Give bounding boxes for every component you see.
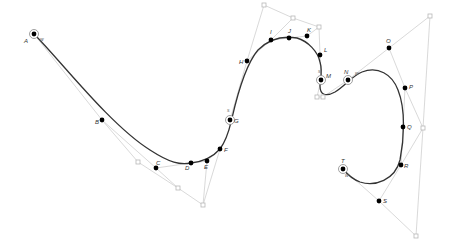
point-label: E xyxy=(204,164,209,170)
bezier-curve xyxy=(34,34,404,184)
point-label: A xyxy=(23,38,28,44)
point-b[interactable]: B xyxy=(95,118,104,125)
control-polygon xyxy=(230,5,321,120)
on-curve-points: ABCDEFGHIJKLMNOPQRST xyxy=(23,27,413,204)
point-dot xyxy=(269,38,274,43)
point-dot xyxy=(100,118,105,123)
point-a[interactable]: A xyxy=(23,30,39,45)
point-label: N xyxy=(344,69,349,75)
point-dot xyxy=(32,32,37,37)
control-polygon xyxy=(317,16,430,236)
point-k[interactable]: K xyxy=(305,27,312,38)
point-label: L xyxy=(324,47,327,53)
tangent-mark: w xyxy=(345,172,349,178)
point-g[interactable]: G xyxy=(226,116,240,125)
point-label: Q xyxy=(407,124,412,130)
point-label: M xyxy=(326,73,331,79)
point-label: P xyxy=(409,84,413,90)
control-polygon xyxy=(379,88,405,201)
point-label: J xyxy=(287,28,292,34)
point-dot xyxy=(319,78,324,83)
point-dot xyxy=(401,125,406,130)
point-label: H xyxy=(239,59,244,65)
point-dot xyxy=(228,118,233,123)
tangent-mark: w xyxy=(355,70,359,76)
control-point-handle[interactable] xyxy=(291,16,295,20)
control-point-handle[interactable] xyxy=(176,186,180,190)
point-dot xyxy=(154,166,159,171)
control-point-handle[interactable] xyxy=(315,95,319,99)
point-label: I xyxy=(270,29,272,35)
point-n[interactable]: N xyxy=(344,69,353,85)
point-dot xyxy=(245,59,250,64)
control-polygon xyxy=(401,128,423,165)
point-h[interactable]: H xyxy=(239,59,249,65)
point-label: D xyxy=(185,165,190,171)
point-dot xyxy=(205,159,210,164)
point-e[interactable]: E xyxy=(204,159,209,170)
point-dot xyxy=(403,86,408,91)
point-q[interactable]: Q xyxy=(401,124,412,130)
control-point-handle[interactable] xyxy=(136,160,140,164)
point-dot xyxy=(399,163,404,168)
point-dot xyxy=(346,78,351,83)
point-l[interactable]: L xyxy=(318,47,328,57)
point-j[interactable]: J xyxy=(287,28,292,40)
point-label: K xyxy=(307,27,312,33)
point-dot xyxy=(218,147,223,152)
bezier-diagram: ABCDEFGHIJKLMNOPQRST wssww xyxy=(0,0,454,244)
point-dot xyxy=(287,36,292,41)
control-point-handle[interactable] xyxy=(262,3,266,7)
point-c[interactable]: C xyxy=(154,160,161,170)
point-label: C xyxy=(156,160,161,166)
point-label: O xyxy=(386,38,391,44)
point-i[interactable]: I xyxy=(269,29,274,42)
tangent-mark: w xyxy=(40,36,44,42)
tangent-mark: s xyxy=(227,107,230,113)
control-polygon xyxy=(102,120,178,188)
point-label: B xyxy=(95,119,99,125)
point-dot xyxy=(387,46,392,51)
point-m[interactable]: M xyxy=(317,73,332,85)
point-dot xyxy=(318,53,323,58)
point-label: F xyxy=(224,147,228,153)
point-label: S xyxy=(383,198,387,204)
point-label: R xyxy=(404,163,409,169)
point-dot xyxy=(305,34,310,39)
point-o[interactable]: O xyxy=(386,38,391,50)
point-d[interactable]: D xyxy=(185,161,193,171)
point-s[interactable]: S xyxy=(377,198,387,204)
control-point-handle[interactable] xyxy=(201,203,205,207)
point-label: G xyxy=(234,118,239,124)
point-dot xyxy=(377,199,382,204)
control-point-handle[interactable] xyxy=(321,95,325,99)
control-point-handle[interactable] xyxy=(428,14,432,18)
control-point-handle[interactable] xyxy=(421,126,425,130)
point-dot xyxy=(341,167,346,172)
point-label: T xyxy=(341,158,346,164)
control-point-handle[interactable] xyxy=(414,234,418,238)
point-r[interactable]: R xyxy=(399,163,409,169)
control-point-handle[interactable] xyxy=(317,25,321,29)
control-polygon xyxy=(34,34,220,205)
tangent-marks: wssww xyxy=(40,36,359,178)
